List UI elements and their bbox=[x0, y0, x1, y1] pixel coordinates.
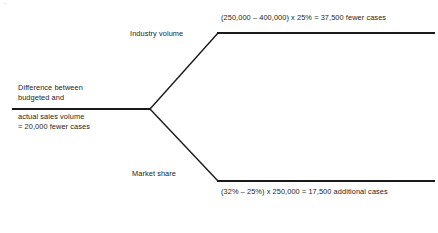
upper-branch-line bbox=[150, 33, 218, 109]
branch-label-industry-volume: Industry volume bbox=[130, 29, 183, 39]
formula-industry-volume: (250,000 – 400,000) x 25% = 37,500 fewer… bbox=[221, 13, 386, 23]
root-label-lower: actual sales volume = 20,000 fewer cases bbox=[18, 112, 144, 131]
root-label-line-3: actual sales volume bbox=[18, 112, 144, 122]
root-label-line-4: = 20,000 fewer cases bbox=[18, 122, 144, 132]
branch-label-market-share: Market share bbox=[132, 169, 176, 179]
root-label-line-2: budgeted and bbox=[18, 93, 144, 103]
diagram-canvas: ... Difference between budgeted and actu… bbox=[0, 0, 438, 233]
formula-market-share: (32% – 25%) x 250,000 = 17,500 additiona… bbox=[221, 187, 388, 197]
root-label-line-1: Difference between bbox=[18, 83, 144, 93]
root-label-upper: Difference between budgeted and bbox=[18, 83, 144, 102]
